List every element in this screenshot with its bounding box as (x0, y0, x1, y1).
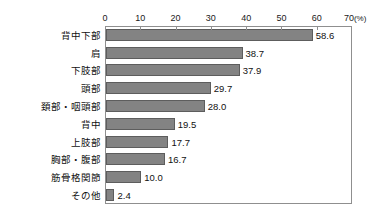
x-tick-label-40: 40 (241, 13, 251, 24)
x-tick-mark-40 (246, 26, 247, 30)
x-axis-tick-labels: 010203040506070(%) (0, 13, 379, 25)
bar (106, 171, 141, 183)
x-tick-label-50: 50 (276, 13, 286, 24)
x-tick-label-60: 60 (312, 13, 322, 24)
x-tick-mark-30 (211, 26, 212, 30)
category-label: 背中下部 (61, 29, 101, 40)
x-tick-mark-20 (176, 26, 177, 30)
category-label: 背中 (81, 118, 101, 129)
bar-row: その他2.4 (0, 186, 379, 204)
bar-value-label: 28.0 (208, 101, 227, 112)
bar-row: 頚部・咽頭部28.0 (0, 97, 379, 115)
category-label: 頚部・咽頭部 (41, 101, 101, 112)
bar (106, 29, 313, 41)
bar (106, 118, 175, 130)
bar-value-label: 10.0 (144, 172, 163, 183)
x-tick-mark-60 (317, 26, 318, 30)
bar-row: 下肢部37.9 (0, 62, 379, 80)
bar-row: 筋骨格関節10.0 (0, 168, 379, 186)
bar-rows: 背中下部58.6肩38.7下肢部37.9頭部29.7頚部・咽頭部28.0背中19… (0, 26, 379, 204)
category-label: その他 (71, 190, 101, 201)
bar-value-label: 19.5 (178, 118, 197, 129)
bar-row: 背中19.5 (0, 115, 379, 133)
chart-page: 010203040506070(%) 背中下部58.6肩38.7下肢部37.9頭… (0, 0, 379, 210)
x-tick-mark-50 (281, 26, 282, 30)
bar-row: 胸部・腹部16.7 (0, 151, 379, 169)
bar-value-label: 17.7 (171, 136, 190, 147)
bar-value-label: 2.4 (117, 190, 130, 201)
horizontal-bar-chart: 010203040506070(%) 背中下部58.6肩38.7下肢部37.9頭… (0, 0, 379, 210)
bar-value-label: 29.7 (214, 83, 233, 94)
x-tick-label-30: 30 (206, 13, 216, 24)
bar-row: 肩38.7 (0, 44, 379, 62)
category-label: 筋骨格関節 (51, 172, 101, 183)
bar-row: 頭部29.7 (0, 79, 379, 97)
bar-value-label: 38.7 (246, 47, 265, 58)
bar (106, 153, 165, 165)
bar (106, 82, 211, 94)
bar (106, 189, 114, 201)
x-tick-label-20: 20 (171, 13, 181, 24)
bar-row: 上肢部17.7 (0, 133, 379, 151)
bar-value-label: 16.7 (168, 154, 187, 165)
x-axis-unit-label: (%) (354, 14, 366, 23)
bar-value-label: 37.9 (243, 65, 262, 76)
x-tick-mark-10 (140, 26, 141, 30)
category-label: 胸部・腹部 (51, 154, 101, 165)
category-label: 肩 (91, 47, 101, 58)
bar-value-label: 58.6 (316, 29, 335, 40)
x-tick-label-70: 70(%) (344, 13, 366, 24)
bar (106, 100, 205, 112)
bar (106, 64, 240, 76)
category-label: 頭部 (81, 83, 101, 94)
bar-row: 背中下部58.6 (0, 26, 379, 44)
x-tick-label-0: 0 (102, 13, 107, 24)
x-tick-label-10: 10 (135, 13, 145, 24)
bar (106, 136, 168, 148)
category-label: 上肢部 (71, 136, 101, 147)
category-label: 下肢部 (71, 65, 101, 76)
bar (106, 47, 243, 59)
